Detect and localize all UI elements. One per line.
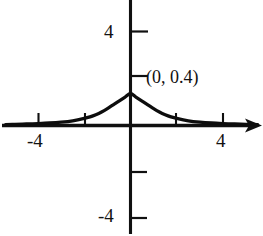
- y-axis-label-pos4: 4: [104, 22, 114, 41]
- y-axis-label-neg4: -4: [98, 206, 114, 225]
- peak-point-label: (0, 0.4): [146, 68, 199, 86]
- bell-curve-figure: -4 4 4 -4 (0, 0.4): [0, 0, 263, 236]
- x-axis-label-neg4: -4: [27, 131, 43, 150]
- plot-canvas: [0, 0, 263, 236]
- x-axis-label-pos4: 4: [216, 131, 226, 150]
